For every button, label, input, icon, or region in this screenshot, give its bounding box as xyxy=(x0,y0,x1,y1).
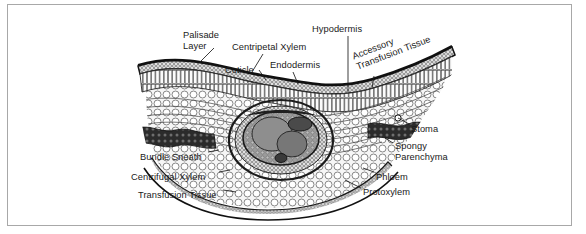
label-centrifugal-xylem: Centrifugal Xylem xyxy=(131,172,205,183)
label-centripetal-xylem: Centripetal Xylem xyxy=(232,42,306,53)
vascular-bundle xyxy=(229,100,333,180)
label-cuticle: Cuticle xyxy=(225,65,254,76)
needle-cross-section-figure xyxy=(0,0,586,234)
label-endodermis: Endodermis xyxy=(270,60,320,71)
screenshot-page: Palisade LayerCentripetal XylemCuticleEn… xyxy=(0,0,586,234)
label-spongy-parenchyma: Spongy Parenchyma xyxy=(395,141,448,162)
label-protoxylem: Protoxylem xyxy=(363,187,410,198)
label-hypodermis: Hypodermis xyxy=(312,24,362,35)
label-phloem: Phloem xyxy=(376,172,408,183)
label-stoma: Stoma xyxy=(411,124,438,135)
label-bundle-sneath: Bundle Sneath xyxy=(140,152,202,163)
label-palisade-layer: Palisade Layer xyxy=(183,30,219,51)
protoxylem xyxy=(275,154,287,163)
label-transfusion-tissue: Transfusion Tissue xyxy=(138,190,217,201)
phloem-region xyxy=(288,117,312,131)
